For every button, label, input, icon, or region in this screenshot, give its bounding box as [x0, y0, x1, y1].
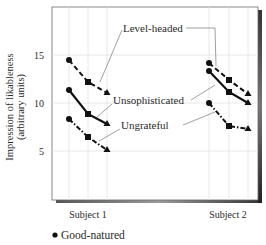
line-chart: 15 10 5 Impression of likableness (arbit…	[0, 0, 266, 245]
circle-marker	[66, 87, 72, 93]
x-group-subject-1: Subject 1	[69, 209, 107, 220]
label-level-headed: Level-headed	[123, 22, 183, 34]
square-marker	[85, 79, 91, 85]
square-marker	[226, 123, 232, 129]
y-axis-label-line2: (arbitrary units)	[15, 73, 27, 140]
x-group-subject-2: Subject 2	[209, 209, 247, 220]
y-tick-5: 5	[39, 146, 44, 157]
y-tick-10: 10	[34, 98, 44, 109]
circle-marker	[206, 60, 212, 66]
circle-marker	[206, 68, 212, 74]
y-axis-label-line1: Impression of likableness	[4, 53, 15, 160]
circle-marker	[66, 57, 72, 63]
square-marker	[85, 111, 91, 117]
square-marker	[85, 134, 91, 140]
panel-shadow-right	[258, 10, 262, 203]
circle-marker	[66, 116, 72, 122]
label-ungrateful: Ungrateful	[121, 119, 169, 131]
y-tick-15: 15	[34, 50, 44, 61]
legend-circle-icon	[52, 232, 57, 237]
label-unsophisticated: Unsophisticated	[113, 94, 184, 106]
legend-good-natured: Good-natured	[61, 229, 125, 241]
y-axis-label: Impression of likableness (arbitrary uni…	[4, 53, 27, 160]
square-marker	[226, 89, 232, 95]
square-marker	[226, 77, 232, 83]
circle-marker	[206, 100, 212, 106]
